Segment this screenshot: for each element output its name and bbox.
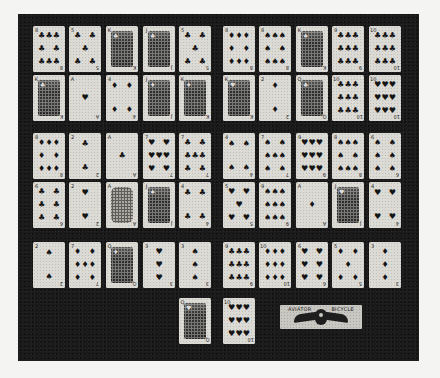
suit-pips: ♥♥ xyxy=(74,185,96,225)
playing-card: 1010♣♣♣♣♣♣♣♣♣ xyxy=(332,75,364,121)
playing-card: 88♦♦♦♦♦♦♦♦ xyxy=(33,133,65,179)
playing-card: 44♥♥♥♥ xyxy=(369,182,401,228)
suit-pips: ♣♣♣♣♣♣ xyxy=(38,185,60,225)
playing-card: JJ♣ xyxy=(143,26,175,72)
suit-icon: ♣ xyxy=(389,45,396,53)
suit-icon: ♠ xyxy=(344,139,351,147)
suit-pips: ♠♠ xyxy=(38,245,60,285)
suit-icon: ♠ xyxy=(264,152,271,160)
advertising-card: AVIATORBICYCLE xyxy=(280,305,362,329)
playing-card: 77♣♣♣♣♣♣♣ xyxy=(179,133,211,179)
suit-icon: ♥ xyxy=(301,165,308,173)
suit-icon: ♠ xyxy=(228,164,235,172)
suit-icon: ♣ xyxy=(352,32,359,40)
playing-card: AA♦ xyxy=(296,182,328,228)
suit-pips: ♣♣♣♣♣♣♣♣ xyxy=(38,29,60,69)
playing-card: 77♠♠♠♠♠♠♠ xyxy=(259,133,291,179)
suit-icon: ♣ xyxy=(40,81,45,88)
suit-icon: ♦ xyxy=(53,152,60,160)
playing-card: 77♦♦♦♦♦♦♦ xyxy=(69,242,101,288)
suit-icon: ♣ xyxy=(337,107,344,115)
suit-icon: ♦ xyxy=(264,274,271,282)
playing-card: 66♠♠♠♠♠♠ xyxy=(369,133,401,179)
suit-icon: ♦ xyxy=(81,261,88,269)
suit-icon: ♣ xyxy=(235,274,242,282)
court-figure-icon: ♥ xyxy=(184,303,206,339)
playing-card: 22♦♦ xyxy=(259,75,291,121)
court-figure-icon: ♠ xyxy=(301,31,323,67)
suit-icon: ♦ xyxy=(271,248,278,256)
suit-icon: ♣ xyxy=(184,139,191,147)
suit-icon: ♣ xyxy=(89,32,96,40)
suit-icon: ♥ xyxy=(228,188,235,196)
suit-icon: ♥ xyxy=(155,152,162,160)
suit-icon: ♣ xyxy=(199,189,206,197)
suit-icon: ♣ xyxy=(38,45,45,53)
suit-icon: ♠ xyxy=(337,165,344,173)
suit-icon: ♦ xyxy=(243,58,250,66)
playing-card: 99♥♥♥♥♥♥♥♥♥ xyxy=(296,133,328,179)
suit-pips: ♠♠♠ xyxy=(184,245,206,285)
playing-card: QQ♥ xyxy=(179,298,211,344)
court-figure-icon: ♥ xyxy=(337,187,359,223)
suit-icon: ♠ xyxy=(337,139,344,147)
playing-card: 22♥♥ xyxy=(69,182,101,228)
suit-icon: ♥ xyxy=(374,213,381,221)
suit-icon: ♣ xyxy=(199,165,206,173)
suit-icon: ♣ xyxy=(374,32,381,40)
suit-icon: ♣ xyxy=(352,58,359,66)
suit-pips: ♥ xyxy=(74,78,96,118)
playing-card: KK♥ xyxy=(223,75,255,121)
suit-icon: ♠ xyxy=(264,139,271,147)
suit-pips: ♥♥♥♥ xyxy=(374,185,396,225)
suit-icon: ♠ xyxy=(279,45,286,53)
suit-icon: ♥ xyxy=(389,213,396,221)
suit-pips: ♣♣♣♣♣ xyxy=(74,29,96,69)
suit-pips: ♥♥♥♥♥♥ xyxy=(301,245,323,285)
suit-icon: ♣ xyxy=(337,58,344,66)
suit-icon: ♦ xyxy=(228,58,235,66)
suit-icon: ♠ xyxy=(271,58,278,66)
playing-card: 33♦♦♦ xyxy=(369,242,401,288)
court-figure-icon: ♦ xyxy=(184,80,206,116)
ad-word-right: BICYCLE xyxy=(331,306,354,312)
suit-icon: ♣ xyxy=(81,140,88,148)
suit-pips: ♦♦ xyxy=(264,78,286,118)
suit-icon: ♥ xyxy=(243,214,250,222)
suit-icon: ♠ xyxy=(279,139,286,147)
suit-icon: ♣ xyxy=(150,32,155,39)
suit-icon: ♥ xyxy=(243,188,250,196)
suit-icon: ♣ xyxy=(381,45,388,53)
suit-icon: ♥ xyxy=(155,248,162,256)
playing-card: AA xyxy=(106,182,138,228)
playing-card: 1010♥♥♥♥♥♥♥♥♥ xyxy=(223,298,255,344)
suit-icon: ♥ xyxy=(374,189,381,197)
suit-pips: ♣♣♣♣♣♣♣♣♣ xyxy=(337,78,359,118)
suit-icon: ♣ xyxy=(38,214,45,222)
suit-icon: ♣ xyxy=(184,213,191,221)
suit-icon: ♥ xyxy=(316,165,323,173)
suit-icon: ♥ xyxy=(163,139,170,147)
suit-icon: ♣ xyxy=(337,45,344,53)
suit-icon: ♠ xyxy=(150,188,155,195)
suit-icon: ♣ xyxy=(81,45,88,53)
suit-icon: ♥ xyxy=(316,274,323,282)
suit-icon: ♦ xyxy=(113,248,118,255)
suit-icon: ♦ xyxy=(279,274,286,282)
suit-pips: ♠♠♠♠ xyxy=(228,136,250,176)
suit-icon: ♣ xyxy=(184,152,191,160)
suit-icon: ♣ xyxy=(113,32,118,39)
suit-icon: ♥ xyxy=(301,274,308,282)
court-figure-icon: ♣ xyxy=(38,80,60,116)
suit-icon: ♦ xyxy=(279,248,286,256)
playing-card: 77♥♥♥♥♥♥♥ xyxy=(143,133,175,179)
suit-icon: ♠ xyxy=(243,164,250,172)
playing-card: KK♣ xyxy=(106,26,138,72)
suit-pips: ♦♦♦♦♦♦♦♦♦ xyxy=(264,245,286,285)
playing-card: 1010♣♣♣♣♣♣♣♣♣ xyxy=(369,26,401,72)
suit-pips: ♠♠♠♠♠♠♠♠ xyxy=(337,136,359,176)
suit-icon: ♦ xyxy=(45,165,52,173)
suit-icon: ♦ xyxy=(271,82,278,90)
suit-icon: ♥ xyxy=(148,165,155,173)
suit-icon: ♥ xyxy=(163,152,170,160)
